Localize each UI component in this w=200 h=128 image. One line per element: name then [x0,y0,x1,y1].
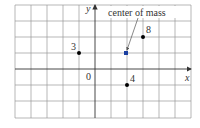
center-of-mass-arrow [127,18,138,50]
x-axis-label: x [184,72,190,83]
grid [15,5,191,118]
center-of-mass-label: center of mass [108,7,166,18]
point-mass-4 [125,83,129,87]
origin-label: 0 [86,71,91,82]
point-mass-8-label: 8 [146,24,151,35]
center-of-mass-diagram: y x 0 3 8 4 center of mass [0,0,200,128]
point-mass-4-label: 4 [130,73,135,84]
point-mass-3-label: 3 [71,41,76,52]
point-mass-3 [77,51,81,55]
point-mass-8 [141,35,145,39]
y-axis-label: y [85,3,91,14]
center-of-mass-point [124,51,128,55]
